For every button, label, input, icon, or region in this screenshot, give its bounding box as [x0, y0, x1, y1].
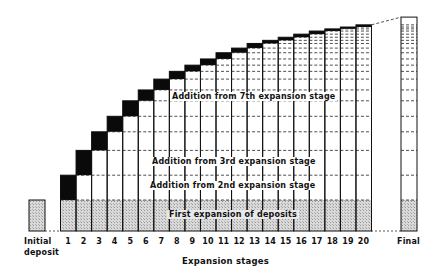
- final-label: Final: [397, 237, 420, 246]
- stage-label-5: 5: [122, 237, 138, 246]
- label-seventh-addition: Addition from 7th expansion stage: [170, 92, 337, 101]
- stage-label-7: 7: [153, 237, 169, 246]
- bar-final: [401, 17, 417, 231]
- stage-label-16: 16: [293, 237, 309, 246]
- stage-label-3: 3: [91, 237, 107, 246]
- stage-label-11: 11: [216, 237, 232, 246]
- label-first-expansion: First expansion of deposits: [167, 210, 299, 219]
- stage-label-13: 13: [247, 237, 263, 246]
- stage-label-6: 6: [138, 237, 154, 246]
- stage-label-14: 14: [262, 237, 278, 246]
- stage-label-10: 10: [200, 237, 216, 246]
- initial-deposit-label-line2: deposit: [24, 248, 59, 257]
- diagram-canvas: [0, 0, 439, 277]
- stage-label-9: 9: [184, 237, 200, 246]
- label-third-addition: Addition from 3rd expansion stage: [150, 157, 318, 166]
- stage-label-8: 8: [169, 237, 185, 246]
- stage-label-12: 12: [231, 237, 247, 246]
- stage-label-15: 15: [278, 237, 294, 246]
- deposit-expansion-diagram: Addition from 7th expansion stage Additi…: [0, 0, 439, 277]
- bar-initial-deposit: [29, 200, 45, 231]
- stage-label-2: 2: [76, 237, 92, 246]
- stage-label-17: 17: [309, 237, 325, 246]
- stage-label-20: 20: [355, 237, 371, 246]
- stage-label-1: 1: [60, 237, 76, 246]
- stage-label-4: 4: [107, 237, 123, 246]
- x-axis-title: Expansion stages: [182, 256, 269, 266]
- initial-deposit-label-line1: Initial: [24, 237, 52, 246]
- label-second-addition: Addition from 2nd expansion stage: [148, 181, 317, 190]
- stage-label-19: 19: [340, 237, 356, 246]
- stage-label-18: 18: [324, 237, 340, 246]
